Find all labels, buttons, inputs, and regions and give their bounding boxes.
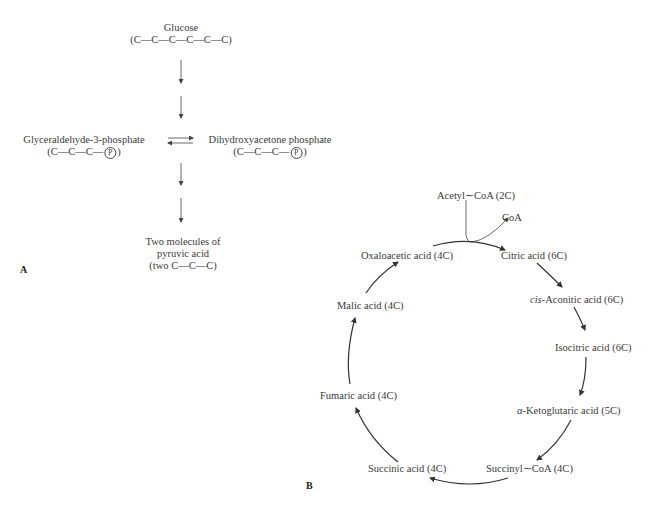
pyruvate-line3: (two C—C—C) <box>145 260 220 272</box>
phosphate-circle-icon: P <box>290 147 302 159</box>
arrow-ketoglutaric-succinyl <box>537 420 571 460</box>
arrow-malic-oxaloacetic <box>366 262 398 293</box>
panel-b-label: B <box>306 480 313 491</box>
malic-acid-label: Malic acid (4C) <box>337 300 403 312</box>
alpha-ketoglutaric-acid-label: α-Ketoglutaric acid (5C) <box>517 405 620 417</box>
cis-prefix: cis <box>530 294 542 305</box>
glucose-formula: (C—C—C—C—C—C) <box>130 34 232 46</box>
ketoglutaric-name: -Ketoglutaric acid (5C) <box>523 405 621 416</box>
arrow-succinic-fumaric <box>356 408 398 462</box>
aconitic-name: -Aconitic acid (6C) <box>542 294 624 305</box>
dhap-label: Dihydroxyacetone phosphate (C—C—C—P) <box>209 134 332 159</box>
arrow-fumaric-malic <box>348 318 355 384</box>
arrow-oxaloacetic-citric <box>433 241 505 250</box>
g3p-formula-end: ) <box>117 146 121 157</box>
citric-acid-label: Citric acid (6C) <box>501 250 567 262</box>
arrow-aconitic-isocitric <box>574 307 585 330</box>
phosphate-circle-icon: P <box>104 147 116 159</box>
fumaric-acid-label: Fumaric acid (4C) <box>320 390 397 402</box>
arrow-citric-aconitic <box>537 263 562 287</box>
coa-label: CoA <box>502 212 522 224</box>
g3p-name: Glyceraldehyde-3-phosphate <box>23 134 144 146</box>
arrow-succinyl-succinic <box>430 478 508 484</box>
dhap-formula-chain: (C—C—C— <box>233 146 289 157</box>
pyruvate-line2: pyruvic acid <box>145 248 220 260</box>
panel-a-label: A <box>20 264 27 275</box>
succinic-acid-label: Succinic acid (4C) <box>368 463 446 475</box>
g3p-formula: (C—C—C—P) <box>23 146 144 159</box>
glucose-label: Glucose (C—C—C—C—C—C) <box>130 22 232 46</box>
oxaloacetic-acid-label: Oxaloacetic acid (4C) <box>361 250 453 262</box>
acetyl-coa-label: Acetyl∼CoA (2C) <box>437 190 515 202</box>
dhap-formula-end: ) <box>303 146 307 157</box>
succinyl-coa-label: Succinyl∼CoA (4C) <box>486 463 573 475</box>
arrow-isocitric-ketoglutaric <box>580 357 586 395</box>
dhap-name: Dihydroxyacetone phosphate <box>209 134 332 146</box>
g3p-formula-chain: (C—C—C— <box>47 146 103 157</box>
glucose-name: Glucose <box>130 22 232 34</box>
cis-aconitic-acid-label: cis-Aconitic acid (6C) <box>530 294 623 306</box>
dhap-formula: (C—C—C—P) <box>209 146 332 159</box>
isocitric-acid-label: Isocitric acid (6C) <box>555 342 631 354</box>
pyruvate-label: Two molecules of pyruvic acid (two C—C—C… <box>145 236 220 272</box>
g3p-label: Glyceraldehyde-3-phosphate (C—C—C—P) <box>23 134 144 159</box>
pyruvate-line1: Two molecules of <box>145 236 220 248</box>
acetyl-coa-entry-line <box>466 200 472 242</box>
